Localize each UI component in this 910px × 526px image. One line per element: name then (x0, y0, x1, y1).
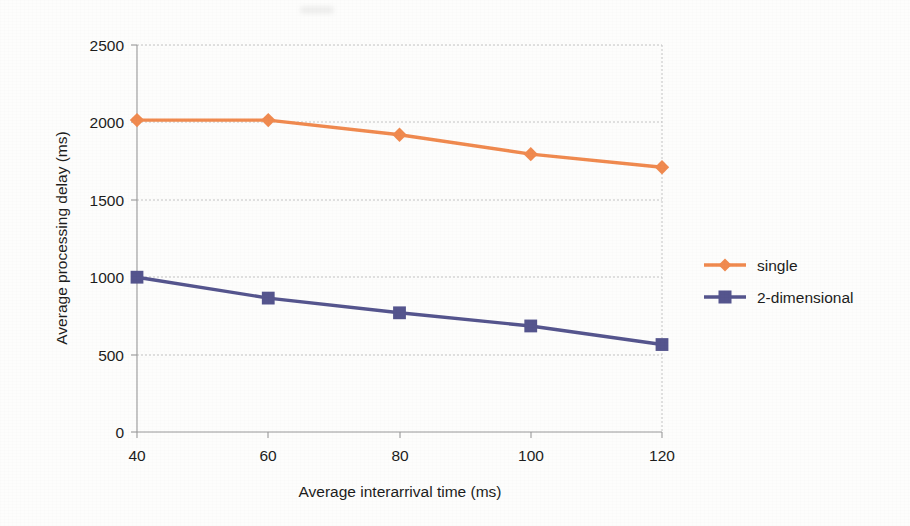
x-tick-label-120: 120 (649, 447, 675, 464)
data-point-square-marker[interactable] (393, 306, 406, 319)
series-line-single (137, 120, 662, 167)
y-tick-label-1000: 1000 (90, 269, 125, 286)
data-point-diamond-marker[interactable] (524, 147, 538, 161)
legend-item-2-dimensional[interactable]: 2-dimensional (704, 289, 854, 306)
y-axis-tick-labels: 2500 2000 1500 1000 500 0 (90, 37, 125, 441)
x-axis-tick-labels: 40 60 80 100 120 (128, 447, 675, 464)
y-axis-title: Average processing delay (ms) (53, 131, 70, 344)
series-2-dimensional (131, 271, 669, 351)
data-point-square-marker[interactable] (262, 292, 275, 305)
data-point-diamond-marker[interactable] (130, 113, 144, 127)
y-tick-label-2000: 2000 (90, 114, 125, 131)
y-tick-label-0: 0 (115, 424, 124, 441)
data-series-layer (130, 113, 669, 351)
legend-label-2-dimensional: 2-dimensional (757, 289, 854, 306)
chart-figure: 2500 2000 1500 1000 500 0 40 60 80 100 1… (0, 0, 910, 526)
x-tick-label-60: 60 (259, 447, 277, 464)
x-tick-label-80: 80 (391, 447, 409, 464)
data-point-square-marker[interactable] (131, 271, 144, 284)
y-tick-label-500: 500 (98, 347, 124, 364)
x-axis-title: Average interarrival time (ms) (299, 483, 502, 500)
data-point-square-marker[interactable] (656, 338, 669, 351)
legend-diamond-marker-icon (719, 259, 732, 272)
data-point-diamond-marker[interactable] (655, 160, 669, 174)
data-point-square-marker[interactable] (524, 320, 537, 333)
x-axis-ticks (137, 432, 662, 438)
y-tick-label-1500: 1500 (90, 192, 125, 209)
legend-label-single: single (757, 257, 798, 274)
legend-square-marker-icon (719, 291, 732, 304)
x-tick-label-100: 100 (518, 447, 544, 464)
chart-legend: single 2-dimensional (704, 257, 854, 306)
axes-lines (137, 45, 662, 432)
line-chart: 2500 2000 1500 1000 500 0 40 60 80 100 1… (0, 0, 910, 526)
y-axis-ticks (131, 45, 137, 432)
y-tick-label-2500: 2500 (90, 37, 125, 54)
x-tick-label-40: 40 (128, 447, 146, 464)
data-point-diamond-marker[interactable] (261, 113, 275, 127)
data-point-diamond-marker[interactable] (392, 128, 406, 142)
legend-item-single[interactable]: single (704, 257, 798, 274)
